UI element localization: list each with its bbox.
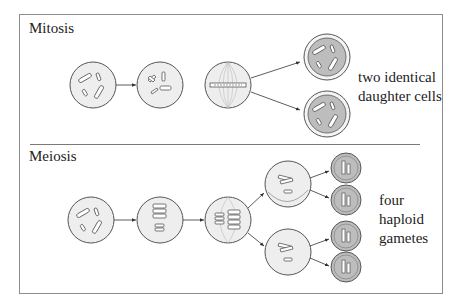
arrow-icon	[248, 193, 264, 208]
daughter-cell	[304, 91, 350, 137]
meiosis-intermediate-cell	[265, 229, 311, 275]
meiosis-metaphase-cell	[205, 197, 251, 243]
arrow-icon	[248, 233, 264, 246]
gamete-cell	[331, 221, 361, 251]
gamete-cell	[331, 252, 361, 282]
mitosis-parent-cell	[70, 62, 116, 108]
meiosis-parent-cell	[68, 197, 114, 243]
arrow-icon	[310, 171, 329, 178]
meiosis-intermediate-cell	[265, 161, 311, 207]
arrow-icon	[251, 62, 300, 78]
cell-division-diagram	[0, 0, 457, 306]
arrow-icon	[251, 92, 300, 110]
daughter-cell	[304, 34, 350, 80]
gamete-cell	[331, 185, 361, 215]
gamete-cell	[331, 153, 361, 183]
meiosis-homolog-cell	[137, 197, 183, 243]
arrow-icon	[310, 258, 329, 266]
mitosis-prophase-cell	[137, 62, 183, 108]
mitosis-metaphase-cell	[205, 62, 251, 108]
arrow-icon	[310, 239, 329, 246]
arrow-icon	[310, 190, 329, 198]
